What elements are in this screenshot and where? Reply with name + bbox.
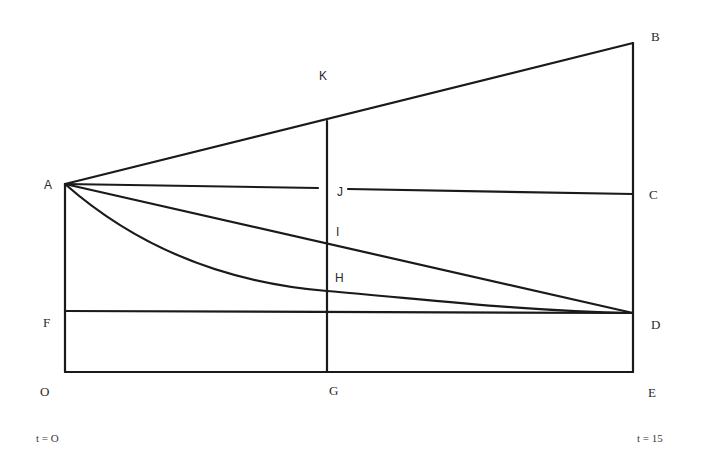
label-G: G bbox=[329, 384, 338, 397]
time-label-start: t = O bbox=[36, 433, 59, 444]
line-FD bbox=[65, 311, 633, 313]
label-F: F bbox=[43, 316, 50, 329]
label-D: D bbox=[651, 318, 660, 331]
label-C: C bbox=[649, 188, 658, 201]
label-H: H bbox=[335, 272, 344, 284]
time-label-end: t = 15 bbox=[637, 433, 663, 444]
label-K: K bbox=[319, 70, 327, 82]
label-I: I bbox=[336, 226, 339, 238]
line-JC bbox=[348, 189, 633, 194]
label-O: O bbox=[40, 385, 49, 398]
label-A: A bbox=[44, 179, 52, 191]
label-E: E bbox=[648, 386, 656, 399]
label-J: J bbox=[337, 186, 343, 198]
line-AB bbox=[65, 43, 633, 184]
line-AJ bbox=[65, 184, 318, 188]
label-B: B bbox=[651, 30, 660, 43]
time-diagram bbox=[0, 0, 707, 462]
